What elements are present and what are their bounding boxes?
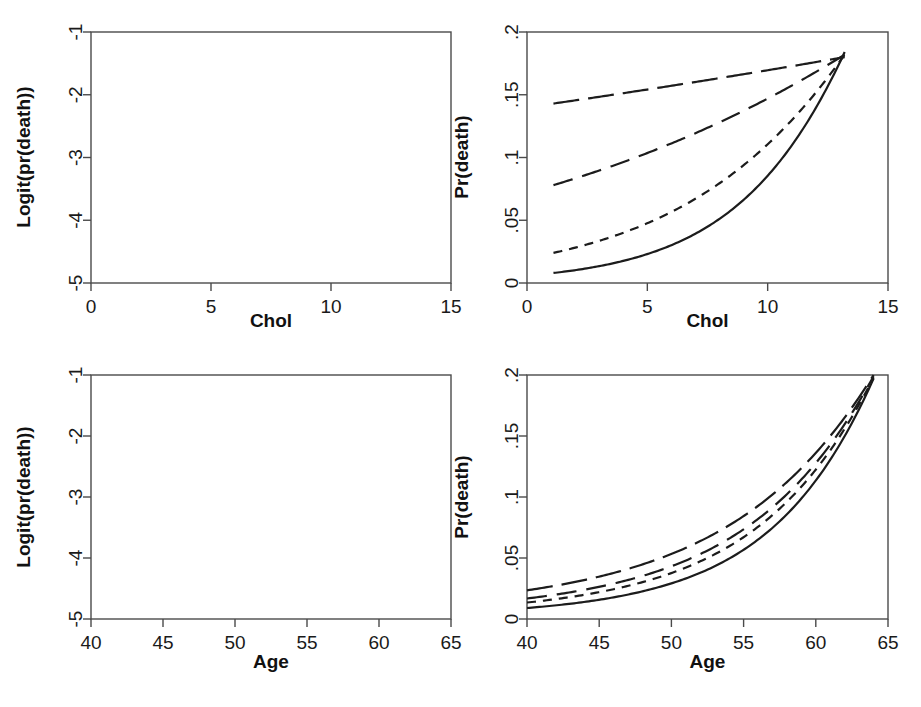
series-curve-2 [527, 377, 874, 602]
series-curve-4 [527, 375, 874, 590]
y-tick-label: 0 [501, 614, 522, 625]
x-tick-label: 65 [877, 632, 898, 653]
panel-bottom-right: 4045505560650.05.1.15.2AgePr(death) [0, 0, 921, 707]
y-tick-label: .05 [501, 545, 522, 571]
x-tick-label: 40 [516, 632, 537, 653]
x-tick-label: 45 [589, 632, 610, 653]
x-tick-label: 60 [805, 632, 826, 653]
plot-frame [527, 375, 888, 619]
x-tick-label: 55 [733, 632, 754, 653]
series-curve-3 [527, 376, 874, 598]
y-axis-title: Pr(death) [451, 455, 472, 538]
x-tick-label: 50 [661, 632, 682, 653]
plot-bottom-right: 4045505560650.05.1.15.2AgePr(death) [0, 0, 921, 707]
y-tick-label: .1 [501, 489, 522, 505]
y-tick-label: .2 [501, 367, 522, 383]
y-tick-label: .15 [501, 423, 522, 449]
x-axis-title: Age [690, 651, 726, 672]
figure-canvas: 051015-1-2-3-4-5CholLogit(pr(death))0510… [0, 0, 921, 707]
series-curve-1 [527, 379, 874, 608]
